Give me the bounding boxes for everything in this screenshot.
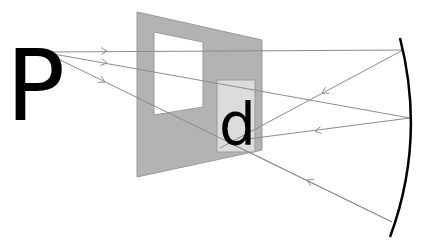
diagram-svg: P d: [0, 0, 423, 243]
concave-mirror: [390, 38, 411, 237]
arrowhead-icon: [100, 58, 107, 65]
image-label-d: d: [219, 91, 256, 159]
arrowhead-icon: [101, 48, 107, 55]
optics-diagram: P d: [0, 0, 423, 243]
ray-middle-reflected: [240, 118, 410, 140]
object-label-p: P: [6, 29, 65, 143]
